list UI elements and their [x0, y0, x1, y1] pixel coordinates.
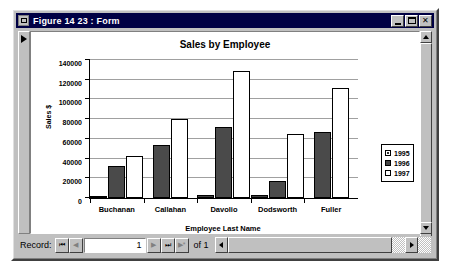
next-record-button[interactable]: ▶ [147, 238, 161, 253]
minimize-button[interactable] [391, 15, 404, 27]
maximize-button[interactable] [405, 15, 418, 27]
first-record-button[interactable]: ⏮ [55, 238, 69, 253]
window-inner-bevel: Figure 14 23 : Form ✕ Sales by Employee … [13, 10, 437, 259]
bar-1996-buchanan [108, 166, 125, 198]
x-axis-label: Callahan [144, 205, 198, 214]
triangle-right-icon [410, 242, 414, 248]
legend-swatch-icon [385, 170, 391, 176]
horizontal-scrollbar[interactable] [215, 237, 431, 253]
bar-1995-dodsworth [251, 195, 268, 198]
legend-label: 1995 [394, 150, 410, 157]
close-icon: ✕ [420, 16, 431, 26]
scroll-up-button[interactable] [420, 31, 432, 43]
y-axis-title: Sales $ [45, 105, 52, 129]
window-controls: ✕ [391, 15, 432, 27]
legend-label: 1997 [394, 170, 410, 177]
x-axis-tick [144, 198, 145, 203]
previous-record-button[interactable]: ◀ [69, 238, 83, 253]
bar-group: Davolio [197, 60, 251, 198]
bar-1995-davolio [197, 195, 214, 198]
x-axis-label: Davolio [197, 205, 251, 214]
bar-group: Callahan [144, 60, 198, 198]
legend-item: 1995 [385, 148, 410, 158]
x-axis-tick [90, 198, 91, 203]
x-axis-tick [251, 198, 252, 203]
scroll-left-button[interactable] [215, 237, 228, 253]
x-axis-label: Buchanan [90, 205, 144, 214]
bar-1996-fuller [314, 132, 331, 198]
bar-1996-dodsworth [269, 181, 286, 198]
last-record-button[interactable]: ⏭ [161, 238, 175, 253]
record-navigator: Record: ⏮ ◀ 1 ▶ ⏭ ▶* of 1 [18, 237, 209, 253]
bar-1997-dodsworth [287, 134, 304, 198]
record-count-label: of 1 [194, 240, 209, 250]
bar-1996-callahan [153, 145, 170, 198]
bar-1997-fuller [332, 88, 349, 198]
bar-group: Dodsworth [251, 60, 305, 198]
window-title: Figure 14 23 : Form [33, 16, 391, 26]
chart-title: Sales by Employee [31, 39, 419, 50]
horizontal-scroll-thumb[interactable] [228, 237, 392, 253]
record-selector-arrow-icon [21, 35, 27, 43]
bar-groups: BuchananCallahanDavolioDodsworthFuller [90, 60, 358, 198]
vertical-scrollbar[interactable] [420, 31, 432, 234]
bar-group: Buchanan [90, 60, 144, 198]
screenshot-root: Figure 14 23 : Form ✕ Sales by Employee … [0, 0, 451, 271]
vertical-scroll-thumb[interactable] [420, 43, 432, 243]
bottom-bar: Record: ⏮ ◀ 1 ▶ ⏭ ▶* of 1 [18, 236, 432, 254]
bar-1997-callahan [171, 119, 188, 198]
legend-swatch-icon [385, 160, 391, 166]
record-selector[interactable] [18, 31, 30, 234]
scroll-right-button[interactable] [405, 237, 418, 253]
scroll-down-button[interactable] [420, 222, 432, 234]
chart-legend: 199519961997 [381, 144, 414, 182]
new-record-button[interactable]: ▶* [175, 238, 189, 253]
system-menu-icon[interactable] [18, 15, 29, 26]
bar-1997-davolio [233, 71, 250, 198]
sales-chart: Sales by Employee Sales $ 02000040000600… [31, 32, 419, 233]
plot-area: 020000400006000080000100000120000140000 … [89, 60, 358, 199]
triangle-up-icon [423, 35, 429, 39]
x-axis-label: Fuller [304, 205, 358, 214]
x-axis-tick [304, 198, 305, 203]
x-axis-label: Dodsworth [251, 205, 305, 214]
bar-1995-buchanan [90, 196, 107, 198]
bar-1996-davolio [215, 127, 232, 198]
legend-item: 1997 [385, 168, 410, 178]
close-button[interactable]: ✕ [419, 15, 432, 27]
legend-label: 1996 [394, 160, 410, 167]
triangle-left-icon [219, 242, 223, 248]
scrollbar-corner [418, 237, 431, 253]
legend-item: 1996 [385, 158, 410, 168]
bar-group: Fuller [304, 60, 358, 198]
triangle-down-icon [423, 226, 429, 230]
form-body: Sales by Employee Sales $ 02000040000600… [16, 29, 434, 256]
legend-swatch-icon [385, 150, 391, 156]
x-axis-tick [197, 198, 198, 203]
title-bar: Figure 14 23 : Form ✕ [16, 13, 434, 28]
form-detail-canvas: Sales by Employee Sales $ 02000040000600… [30, 31, 420, 234]
record-number-input[interactable]: 1 [84, 238, 146, 253]
record-label: Record: [20, 240, 52, 250]
form-window: Figure 14 23 : Form ✕ Sales by Employee … [11, 8, 439, 261]
x-axis-title: Employee Last Name [89, 224, 357, 233]
bar-1997-buchanan [126, 156, 143, 198]
